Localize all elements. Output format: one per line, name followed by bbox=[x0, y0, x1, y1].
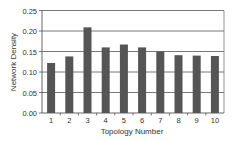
bar-topology-4 bbox=[102, 47, 110, 113]
x-tick-label: 2 bbox=[67, 116, 71, 125]
y-tick-label: 0.15 bbox=[22, 48, 37, 57]
x-tick-label: 1 bbox=[49, 116, 53, 125]
bar-topology-2 bbox=[65, 56, 73, 113]
y-tick-label: 0.20 bbox=[22, 27, 37, 36]
x-axis-label: Topology Number bbox=[101, 127, 164, 136]
y-axis-label: Network Density bbox=[9, 33, 18, 91]
y-tick-label: 0.10 bbox=[22, 68, 37, 77]
bar-topology-10 bbox=[211, 56, 219, 113]
bar-topology-9 bbox=[193, 56, 201, 113]
y-tick-label: 0.00 bbox=[22, 109, 37, 118]
y-tick-label: 0.25 bbox=[22, 7, 37, 16]
bar-topology-6 bbox=[138, 47, 146, 113]
x-tick-label: 3 bbox=[85, 116, 89, 125]
bar-topology-8 bbox=[175, 55, 183, 113]
y-axis-ticks: 0.000.050.100.150.200.25 bbox=[22, 7, 42, 119]
x-tick-label: 6 bbox=[140, 116, 144, 125]
bar-topology-7 bbox=[156, 52, 164, 114]
x-tick-label: 5 bbox=[122, 116, 126, 125]
bars bbox=[47, 27, 219, 113]
x-tick-label: 9 bbox=[195, 116, 199, 125]
bar-chart: 0.000.050.100.150.200.25 12345678910 Net… bbox=[0, 0, 236, 141]
chart-canvas: 0.000.050.100.150.200.25 12345678910 Net… bbox=[0, 0, 236, 141]
x-axis-ticks: 12345678910 bbox=[49, 113, 219, 125]
x-tick-label: 10 bbox=[211, 116, 219, 125]
x-tick-label: 4 bbox=[104, 116, 108, 125]
y-tick-label: 0.05 bbox=[22, 89, 37, 98]
bar-topology-1 bbox=[47, 63, 55, 113]
x-tick-label: 7 bbox=[158, 116, 162, 125]
bar-topology-5 bbox=[120, 45, 128, 113]
x-tick-label: 8 bbox=[176, 116, 180, 125]
bar-topology-3 bbox=[84, 27, 92, 113]
